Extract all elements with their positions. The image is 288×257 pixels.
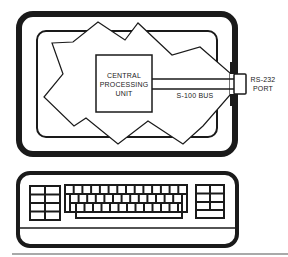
left-keypad [30,186,60,220]
main-keys [65,185,187,218]
cpu-label-line1: CENTRAL [96,71,152,80]
port-box [234,74,246,94]
cpu-label: CENTRAL PROCESSING UNIT [96,71,152,98]
port-label-line1: RS-232 [248,75,278,84]
diagram-canvas [0,0,288,257]
right-keypad [196,185,224,218]
cpu-label-line3: UNIT [96,89,152,98]
bus-label: S-100 BUS [170,91,220,100]
cpu-label-line2: PROCESSING [96,80,152,89]
port-label-line2: PORT [248,84,278,93]
port-label: RS-232 PORT [248,75,278,93]
